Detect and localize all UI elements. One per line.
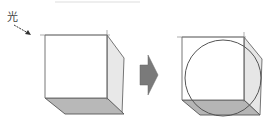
cube-left-front-face bbox=[45, 35, 107, 98]
cube-left bbox=[40, 30, 124, 114]
cube-right-with-circle bbox=[177, 32, 262, 116]
diagram-canvas bbox=[0, 0, 270, 128]
cube-right-front-face bbox=[182, 37, 244, 100]
light-direction-arrow-icon bbox=[14, 25, 31, 35]
transition-arrow-icon bbox=[140, 55, 158, 95]
